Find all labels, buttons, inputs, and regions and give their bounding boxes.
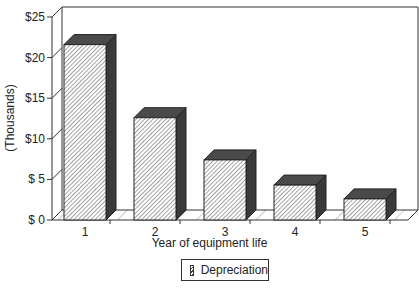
- legend: Depreciation: [181, 259, 269, 281]
- bar: [274, 175, 326, 220]
- y-axis: $ 0$ 5$10$15$20$25: [25, 7, 62, 227]
- hatch-swatch-icon: [190, 265, 194, 276]
- y-tick-label: $20: [25, 51, 45, 65]
- x-axis-title: Year of equipment life: [0, 236, 419, 250]
- y-tick-label: $25: [25, 10, 45, 24]
- bar: [204, 150, 256, 220]
- bar: [344, 189, 396, 220]
- y-tick-label: $15: [25, 91, 45, 105]
- bar: [134, 108, 186, 220]
- bars: [64, 35, 396, 220]
- y-tick-label: $ 0: [28, 213, 45, 227]
- y-tick-label: $ 5: [28, 172, 45, 186]
- bar: [64, 35, 116, 220]
- y-axis-title: (Thousands): [3, 84, 17, 151]
- legend-label: Depreciation: [201, 263, 268, 277]
- y-tick-label: $10: [25, 132, 45, 146]
